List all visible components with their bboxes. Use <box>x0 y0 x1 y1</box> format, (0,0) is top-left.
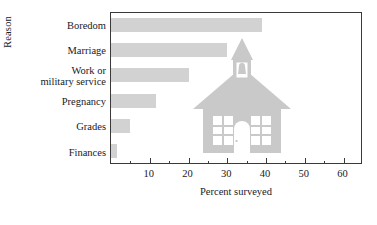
category-label: Work ormilitary service <box>20 65 106 88</box>
bar <box>111 18 262 32</box>
x-tick-label: 50 <box>289 168 319 179</box>
category-label: Boredom <box>20 20 106 32</box>
x-tick-label: 40 <box>250 168 280 179</box>
x-tick-major <box>150 158 151 164</box>
x-axis-title: Percent surveyed <box>110 186 362 197</box>
bar <box>111 94 156 108</box>
bar <box>111 43 227 57</box>
y-axis-title: Reason <box>2 0 18 72</box>
plot-area <box>110 12 362 164</box>
x-tick-minor <box>130 161 131 165</box>
x-tick-major <box>266 158 267 164</box>
x-tick-minor <box>285 161 286 165</box>
x-tick-major <box>227 158 228 164</box>
x-tick-minor <box>247 161 248 165</box>
category-label: Marriage <box>20 45 106 57</box>
x-tick-label: 30 <box>211 168 241 179</box>
x-tick-label: 10 <box>134 168 164 179</box>
x-tick-major <box>305 158 306 164</box>
bar <box>111 119 130 133</box>
x-tick-minor <box>169 161 170 165</box>
x-tick-major <box>344 158 345 164</box>
x-tick-major <box>189 158 190 164</box>
x-tick-minor <box>324 161 325 165</box>
bar-chart: Reason BoredomMarriageWork ormilitary se… <box>0 0 377 225</box>
x-tick-label: 60 <box>328 168 358 179</box>
bar <box>111 144 117 158</box>
x-tick-label: 20 <box>173 168 203 179</box>
category-label: Grades <box>20 121 106 133</box>
category-label: Pregnancy <box>20 96 106 108</box>
x-tick-minor <box>208 161 209 165</box>
category-label-list: BoredomMarriageWork ormilitary servicePr… <box>20 12 106 164</box>
bar <box>111 68 189 82</box>
category-label: Finances <box>20 147 106 159</box>
